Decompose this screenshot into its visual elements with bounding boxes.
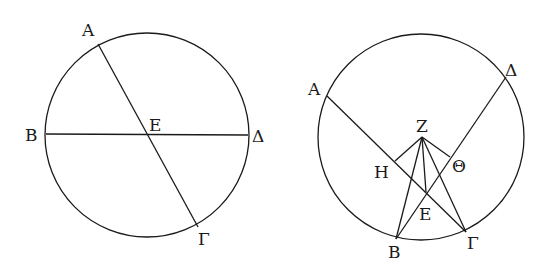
label-B-left: B: [25, 125, 38, 145]
label-Gamma-right: Γ: [467, 233, 479, 253]
line-Z-H: [395, 137, 422, 161]
label-Theta-right: Θ: [452, 156, 466, 176]
label-Delta-left: Δ: [252, 126, 264, 146]
line-A-Gamma: [98, 44, 198, 227]
label-A-right: A: [307, 79, 321, 99]
label-E-right: E: [419, 204, 431, 224]
label-Delta-right: Δ: [505, 60, 517, 80]
label-Gamma-left: Γ: [198, 229, 210, 249]
label-Z-right: Z: [416, 116, 428, 136]
label-E-left: E: [149, 115, 161, 135]
line-A-Gamma: [327, 96, 466, 232]
label-H-right: H: [374, 162, 389, 182]
line-B-Delta: [46, 134, 248, 135]
right-figure: A Δ Z H Θ E B Γ: [307, 34, 524, 262]
label-B-right: B: [388, 242, 401, 262]
left-figure: A B E Δ Γ: [25, 20, 264, 249]
geometry-diagrams: A B E Δ Γ A Δ Z H Θ E B Γ: [0, 0, 547, 274]
label-A-left: A: [81, 20, 95, 40]
